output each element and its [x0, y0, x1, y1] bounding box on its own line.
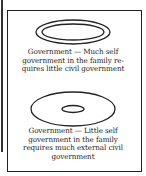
outer-ellipse-civil	[31, 92, 115, 126]
caption-line: government	[9, 153, 137, 162]
panel-2-diagram	[31, 92, 115, 126]
caption-line: quires little civil government	[9, 65, 137, 74]
caption-much-self-government: Government — Much self government in the…	[9, 48, 137, 74]
panel-1-diagram	[36, 20, 110, 44]
caption-little-self-government: Government — Little self government in t…	[9, 127, 137, 161]
inner-ellipse-self	[62, 106, 84, 113]
inner-ellipse-self	[42, 24, 104, 40]
